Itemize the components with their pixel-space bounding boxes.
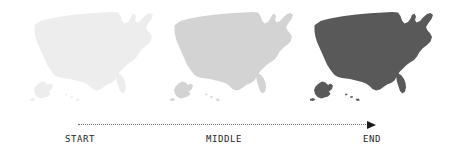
- us-aleutian-shape: [170, 98, 176, 101]
- us-aleutian-shape: [310, 98, 316, 101]
- us-hawaii-shape: [205, 94, 220, 102]
- us-map-silhouette-middle: [170, 12, 293, 101]
- us-mainland-shape: [315, 12, 434, 91]
- stage-label-end: END: [363, 133, 381, 145]
- us-map-silhouette-end: [310, 12, 433, 101]
- us-florida-shape: [396, 73, 406, 94]
- stage-labels: START MIDDLE END: [0, 133, 462, 147]
- map-stage-start: [24, 4, 166, 112]
- arrow-head-icon: [367, 121, 376, 129]
- us-florida-shape: [116, 73, 126, 94]
- us-mainland-shape: [35, 12, 154, 91]
- us-hawaii-shape: [65, 94, 80, 102]
- dotted-line: [78, 124, 366, 125]
- progression-figure: START MIDDLE END: [0, 0, 462, 149]
- us-map-silhouette-start: [30, 12, 153, 101]
- us-hawaii-shape: [345, 94, 360, 102]
- us-mainland-shape: [175, 12, 294, 91]
- us-alaska-shape: [34, 82, 53, 99]
- stage-label-start: START: [65, 133, 95, 145]
- us-florida-shape: [256, 73, 266, 94]
- us-alaska-shape: [314, 82, 333, 99]
- map-sequence: [0, 0, 462, 115]
- map-stage-middle: [164, 4, 306, 112]
- stage-label-middle: MIDDLE: [206, 133, 242, 145]
- us-alaska-shape: [174, 82, 193, 99]
- us-aleutian-shape: [30, 98, 36, 101]
- progression-arrow: [78, 121, 376, 130]
- map-stage-end: [304, 4, 446, 112]
